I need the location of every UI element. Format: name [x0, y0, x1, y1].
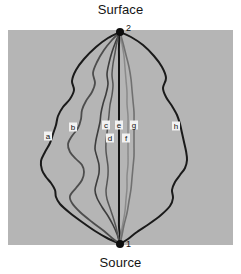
source-node-number: 1: [126, 239, 131, 249]
ray-label-d: d: [106, 134, 114, 143]
ray-label-c: c: [102, 121, 110, 130]
surface-node-number: 2: [126, 23, 131, 33]
ray-label-b: b: [69, 123, 77, 132]
ray-label-g: g: [130, 121, 138, 130]
ray-path-e: [119, 32, 120, 244]
ray-label-text-d: d: [108, 134, 112, 143]
ray-label-text-c: c: [104, 121, 108, 130]
medium-panel: [8, 30, 233, 245]
ray-label-text-h: h: [174, 122, 178, 131]
ray-label-text-e: e: [117, 121, 122, 130]
surface-node-marker: [116, 28, 124, 36]
source-node-marker: [116, 240, 124, 248]
ray-path-plot: 12 abcdefgh: [0, 0, 241, 274]
ray-label-h: h: [172, 122, 180, 131]
ray-label-text-b: b: [71, 123, 76, 132]
source-caption: Source: [0, 255, 241, 270]
ray-label-text-a: a: [46, 132, 51, 141]
ray-label-e: e: [115, 121, 123, 130]
ray-label-a: a: [44, 132, 52, 141]
ray-label-f: f: [122, 134, 130, 143]
ray-path-figure: Surface 12 abcdefgh Source: [0, 0, 241, 274]
ray-label-text-g: g: [132, 121, 136, 130]
